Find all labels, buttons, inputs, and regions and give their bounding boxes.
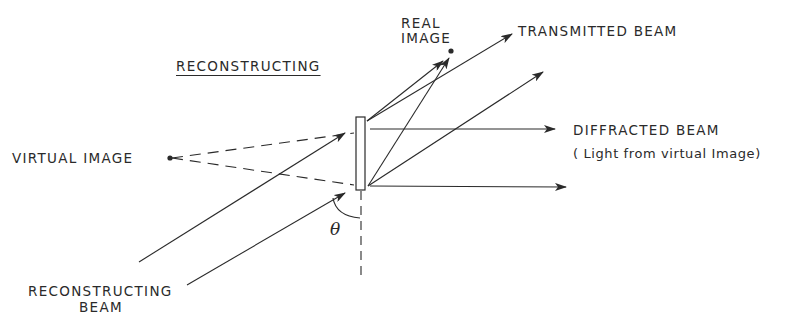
real-image-ray-from-top [367,61,443,121]
reconstructing-ray-upper [139,133,345,262]
real-image-point [448,48,453,53]
virtual-image-dashed-ray-lower [172,158,354,185]
hologram-plate [356,117,365,190]
reconstructing-beam-label-line2: BEAM [79,300,123,315]
diffracted-beam-label: DIFFRACTED BEAM [573,123,720,138]
diffracted-beam-note: ( Light from virtual Image) [573,146,761,161]
real-image-ray-from-bottom [368,58,449,186]
reconstructing-beam-label-line1: RECONSTRUCTING [28,284,173,299]
hologram-reconstruction-diagram: RECONSTRUCTING REAL IMAGE TRANSMITTED BE… [0,0,793,327]
angle-theta-arc [333,198,360,218]
real-image-label-line2: IMAGE [401,31,451,46]
angle-theta-label: θ [330,222,340,237]
virtual-image-label: VIRTUAL IMAGE [12,151,133,166]
virtual-image-point [167,155,172,160]
diagram-title: RECONSTRUCTING [176,59,321,74]
real-image-label-line1: REAL [401,16,441,31]
diffracted-ray-lower [370,186,566,187]
reconstructing-ray-lower [187,193,345,285]
transmitted-beam-label: TRANSMITTED BEAM [518,24,678,39]
transmitted-ray-upper [367,34,512,121]
virtual-image-dashed-ray-upper [172,133,354,158]
